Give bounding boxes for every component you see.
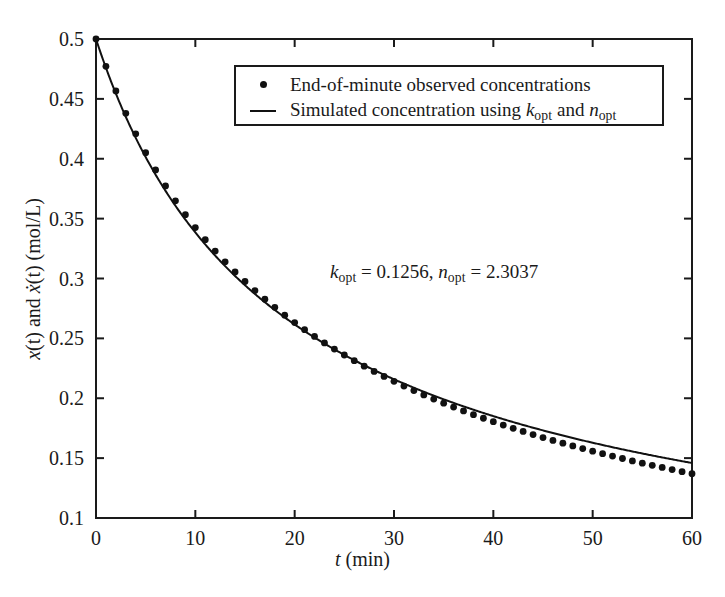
data-point [391,378,398,385]
x-tick-label: 40 [483,528,503,548]
legend-item-simulated: Simulated concentration using kopt and n… [236,97,662,125]
legend-sub-n: opt [599,108,617,123]
data-point [480,415,487,422]
data-point [619,455,626,462]
data-point [222,258,229,265]
y-axis-arg-2: (t) [22,265,44,284]
y-axis-conjunction: and [22,293,44,332]
x-tick-label: 50 [583,528,603,548]
data-point [242,278,249,285]
parameter-annotation: kopt = 0.1256, nopt = 2.3037 [330,262,538,285]
y-axis-arg-1: (t) [22,332,44,351]
x-tick-label: 10 [185,528,205,548]
data-point [261,296,268,303]
data-point [639,460,646,467]
data-point [550,437,557,444]
data-point [291,319,298,326]
x-tick-label: 0 [91,528,101,548]
data-point [232,269,239,276]
data-point [142,149,149,156]
data-point [679,468,686,475]
legend-item-observed: End-of-minute observed concentrations [236,70,662,98]
annotation-value-k: = 0.1256, [356,261,438,282]
data-point [470,411,477,418]
data-point [321,340,328,347]
data-point [172,197,179,204]
data-point [430,396,437,403]
data-point [122,110,129,117]
legend-sym-n: n [589,99,599,120]
data-point [609,453,616,460]
legend-sim-text-pre: Simulated concentration using [290,99,526,120]
figure-container: 0.10.150.20.250.30.350.40.450.5 01020304… [0,0,725,597]
data-point [162,183,169,190]
data-point [649,462,656,469]
data-point [202,236,209,243]
data-point [351,357,358,364]
data-point [689,470,696,477]
data-point [589,448,596,455]
data-point [132,130,139,137]
data-point [252,287,259,294]
legend: End-of-minute observed concentrations Si… [234,65,664,126]
legend-sim-text-mid: and [552,99,589,120]
data-point [331,346,338,353]
data-point [569,443,576,450]
data-point [93,36,100,43]
data-point [271,304,278,311]
y-axis-title: x(t) and ẋ(t) (mol/L) [22,39,56,519]
data-point [629,457,636,464]
legend-line-icon [236,110,290,112]
data-point [103,63,110,70]
x-tick-label: 30 [384,528,404,548]
data-point [420,392,427,399]
y-axis-var-x: x [22,351,44,360]
data-point [559,440,566,447]
annotation-sym-n: n [438,261,448,282]
data-point [450,404,457,411]
data-point [410,387,417,394]
data-point [440,400,447,407]
data-point [659,464,666,471]
data-point [490,418,497,425]
x-tick-label: 60 [682,528,702,548]
legend-label-simulated: Simulated concentration using kopt and n… [290,100,617,123]
data-point [192,224,199,231]
data-point [500,422,507,429]
data-point [112,88,119,95]
data-point [669,466,676,473]
data-point [540,434,547,441]
annotation-value-n: = 2.3037 [466,261,538,282]
x-tick-label: 20 [285,528,305,548]
data-point [599,450,606,457]
annotation-sub-k: opt [338,270,356,285]
data-point [182,211,189,218]
data-point [460,408,467,415]
data-point [341,352,348,359]
data-point [212,248,219,255]
data-point [520,428,527,435]
data-point [152,166,159,173]
data-point [510,425,517,432]
data-point [301,326,308,333]
y-axis-var-xdot: ẋ [22,284,44,293]
data-point [361,363,368,370]
annotation-sub-n: opt [448,270,466,285]
data-point [381,373,388,380]
data-point [281,312,288,319]
legend-label-observed: End-of-minute observed concentrations [290,75,591,94]
data-point [371,368,378,375]
x-axis-title: t (min) [0,548,725,571]
data-point [530,431,537,438]
x-axis-unit: (min) [346,548,390,570]
data-point [311,333,318,340]
legend-dot-icon [236,81,290,88]
data-point [401,383,408,390]
y-axis-unit: (mol/L) [22,198,44,265]
data-point [579,445,586,452]
legend-sub-k: opt [534,108,552,123]
